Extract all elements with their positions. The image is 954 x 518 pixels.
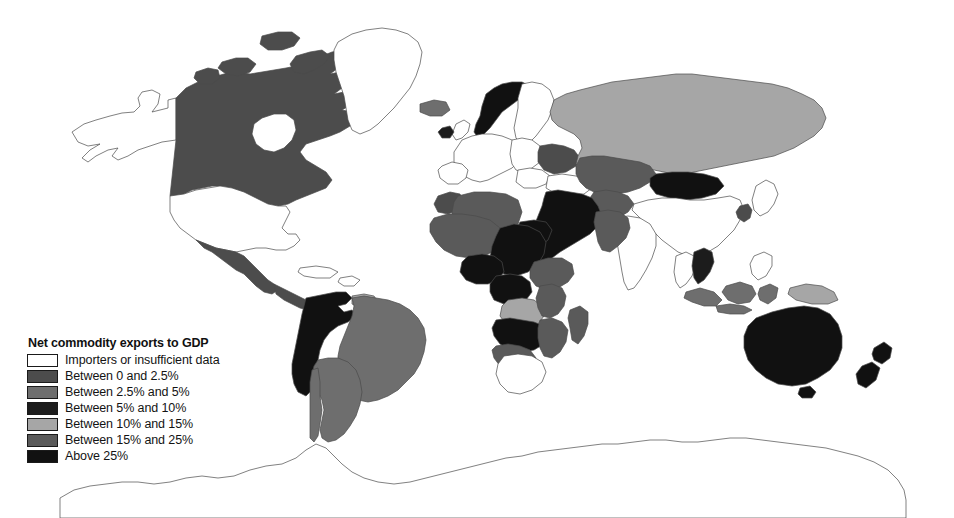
legend-item-2-5-to-5[interactable]: Between 2.5% and 5% (27, 385, 219, 401)
legend-label-above-25: Above 25% (65, 450, 128, 463)
legend-item-10-to-15[interactable]: Between 10% and 15% (27, 417, 219, 433)
legend-label-2-5-to-5: Between 2.5% and 5% (65, 386, 190, 399)
legend-title: Net commodity exports to GDP (28, 337, 219, 350)
legend-swatch-10-to-15 (27, 418, 58, 431)
legend-label-10-to-15: Between 10% and 15% (65, 418, 193, 431)
legend-swatch-2-5-to-5 (27, 386, 58, 399)
legend-label-5-to-10: Between 5% and 10% (65, 402, 186, 415)
legend-item-importers[interactable]: Importers or insufficient data (27, 353, 219, 369)
region-iceland (420, 100, 450, 116)
map-legend: Net commodity exports to GDP Importers o… (27, 337, 219, 465)
legend-swatch-importers (27, 354, 58, 367)
legend-swatch-above-25 (27, 450, 58, 463)
legend-label-0-to-2-5: Between 0 and 2.5% (65, 370, 179, 383)
legend-item-0-to-2-5[interactable]: Between 0 and 2.5% (27, 369, 219, 385)
legend-label-importers: Importers or insufficient data (65, 354, 219, 367)
legend-label-15-to-25: Between 15% and 25% (65, 434, 193, 447)
legend-swatch-5-to-10 (27, 402, 58, 415)
legend-swatch-0-to-2-5 (27, 370, 58, 383)
legend-item-above-25[interactable]: Above 25% (27, 449, 219, 465)
legend-swatch-15-to-25 (27, 434, 58, 447)
world-choropleth-figure: .l { stroke:#4a4a4a; stroke-width:0.7; s… (0, 0, 954, 518)
legend-item-15-to-25[interactable]: Between 15% and 25% (27, 433, 219, 449)
legend-item-5-to-10[interactable]: Between 5% and 10% (27, 401, 219, 417)
